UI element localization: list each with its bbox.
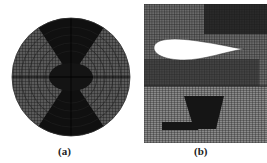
circular-mesh-figure <box>10 15 132 139</box>
panel-label-b: (b) <box>194 145 207 157</box>
panel-label-a: (a) <box>58 145 71 157</box>
airfoil-mesh-figure <box>144 4 267 143</box>
